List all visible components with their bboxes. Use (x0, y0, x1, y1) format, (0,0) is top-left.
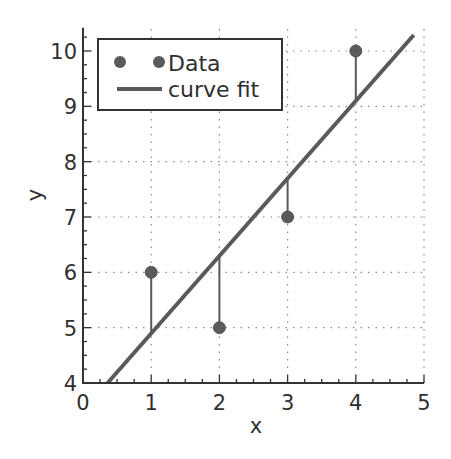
y-tick-labels: 45678910 (50, 40, 77, 396)
legend-label-data: Data (168, 51, 221, 76)
x-tick-labels: 012345 (76, 391, 430, 415)
x-tick-label: 3 (281, 391, 294, 415)
legend: Data curve fit (98, 39, 282, 110)
y-tick-label: 9 (64, 95, 77, 119)
data-point (282, 211, 294, 223)
y-tick-label: 7 (64, 206, 77, 230)
x-tick-label: 0 (76, 391, 89, 415)
y-tick-label: 10 (50, 40, 77, 64)
y-tick-label: 8 (64, 151, 77, 175)
legend-data-marker-icon (153, 56, 165, 68)
x-tick-label: 2 (213, 391, 226, 415)
legend-data-marker-icon (114, 56, 126, 68)
x-axis-label: x (250, 414, 262, 438)
data-point (350, 45, 362, 57)
x-tick-label: 4 (349, 391, 362, 415)
x-tick-label: 1 (145, 391, 158, 415)
data-point (145, 266, 157, 278)
y-tick-label: 6 (64, 261, 77, 285)
y-axis-label: y (23, 189, 47, 201)
x-tick-label: 5 (417, 391, 430, 415)
y-tick-label: 5 (64, 317, 77, 341)
y-tick-label: 4 (64, 372, 77, 396)
chart: 012345 45678910 x y Data curve fit (0, 0, 451, 459)
legend-label-curve-fit: curve fit (168, 77, 259, 102)
data-point (213, 322, 225, 334)
